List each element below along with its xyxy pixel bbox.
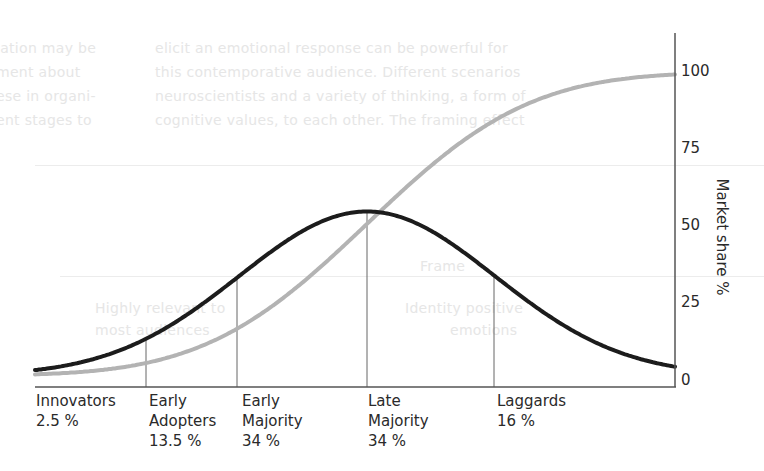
category-label-early-adopters: Early Adopters 13.5 % xyxy=(149,391,216,451)
cumulative-market-share-curve xyxy=(35,74,675,374)
category-label-early-majority: Early Majority 34 % xyxy=(242,391,303,451)
y-axis-label: Market share % xyxy=(713,167,731,307)
y-tick-25: 25 xyxy=(681,293,700,311)
y-tick-50: 50 xyxy=(681,216,700,234)
y-tick-0: 0 xyxy=(681,371,691,389)
y-tick-100: 100 xyxy=(681,62,710,80)
category-label-laggards: Laggards 16 % xyxy=(497,391,566,431)
y-tick-75: 75 xyxy=(681,139,700,157)
category-label-late-majority: Late Majority 34 % xyxy=(368,391,429,451)
category-label-innovators: Innovators 2.5 % xyxy=(36,391,116,431)
